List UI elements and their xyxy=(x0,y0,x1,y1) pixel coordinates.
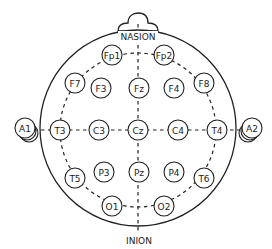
inion-label: INION xyxy=(126,236,152,246)
electrode-fz: Fz xyxy=(129,78,149,98)
electrode-label: C4 xyxy=(172,126,184,136)
electrode-label: F8 xyxy=(199,79,210,89)
electrode-label: Fz xyxy=(134,84,144,94)
electrode-f3: F3 xyxy=(91,78,111,98)
electrode-f7: F7 xyxy=(65,73,85,93)
electrode-label: A1 xyxy=(19,124,31,134)
electrode-fp2: Fp2 xyxy=(154,45,174,65)
electrode-a2: A2 xyxy=(242,118,262,138)
electrode-label: T4 xyxy=(210,126,222,136)
electrode-label: T3 xyxy=(53,126,65,136)
nose-shape xyxy=(118,13,158,31)
electrode-cz: Cz xyxy=(128,120,148,140)
nasion-label: NASION xyxy=(120,32,155,42)
electrode-pz: Pz xyxy=(129,162,149,182)
electrode-label: C3 xyxy=(93,126,105,136)
electrode-t5: T5 xyxy=(65,168,85,188)
electrode-label: A2 xyxy=(246,124,258,134)
electrode-label: Fp1 xyxy=(104,51,121,61)
electrode-p3: P3 xyxy=(94,162,114,182)
electrode-a1: A1 xyxy=(15,118,35,138)
electrode-label: F7 xyxy=(70,79,81,89)
electrode-label: T6 xyxy=(197,174,209,184)
electrode-label: O1 xyxy=(106,202,119,212)
electrode-o2: O2 xyxy=(154,196,174,216)
electrode-label: F3 xyxy=(96,84,107,94)
electrode-fp1: Fp1 xyxy=(102,45,122,65)
eeg-diagram: NASION INION Fp1Fp2F7F3FzF4F8T3C3CzC4T4T… xyxy=(0,0,272,249)
electrode-label: O2 xyxy=(158,202,171,212)
electrode-f8: F8 xyxy=(194,73,214,93)
electrode-label: Pz xyxy=(134,168,144,178)
electrode-label: T5 xyxy=(68,174,80,184)
electrode-c4: C4 xyxy=(168,120,188,140)
electrode-label: P3 xyxy=(98,168,109,178)
electrode-label: Fp2 xyxy=(156,51,173,61)
electrode-label: P4 xyxy=(168,168,179,178)
electrode-o1: O1 xyxy=(102,196,122,216)
electrode-label: F4 xyxy=(169,84,180,94)
electrode-f4: F4 xyxy=(164,78,184,98)
electrode-p4: P4 xyxy=(164,162,184,182)
electrode-t3: T3 xyxy=(50,120,70,140)
electrode-c3: C3 xyxy=(89,120,109,140)
electrode-t6: T6 xyxy=(194,168,214,188)
electrode-label: Cz xyxy=(132,126,143,136)
electrode-t4: T4 xyxy=(207,120,227,140)
